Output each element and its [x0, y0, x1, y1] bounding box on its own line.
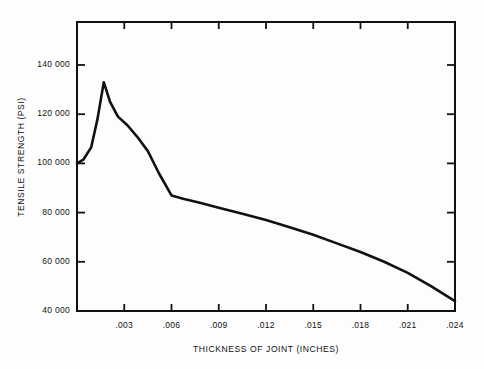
- x-axis-tick-label: .009: [199, 320, 239, 330]
- x-axis-title: THICKNESS OF JOINT (INCHES): [77, 344, 455, 354]
- x-axis-tick-label: .024: [435, 320, 475, 330]
- x-axis-tick-label: .015: [293, 320, 333, 330]
- x-axis-tick-label: .003: [104, 320, 144, 330]
- x-axis-tick-label: .006: [152, 320, 192, 330]
- x-axis-tick-label: .021: [388, 320, 428, 330]
- x-axis-tick-label: .012: [246, 320, 286, 330]
- y-axis-tick-label: 140 000: [14, 59, 70, 69]
- y-axis-tick-label: 40 000: [14, 305, 70, 315]
- y-axis-tick-label: 60 000: [14, 256, 70, 266]
- chart-plot-area: [0, 0, 484, 369]
- chart-figure: 40 00060 00080 000100 000120 000140 000 …: [0, 0, 484, 369]
- data-series-line: [77, 82, 455, 301]
- y-axis-title: TENSILE STRENGTH (PSI): [16, 82, 26, 232]
- x-axis-tick-label: .018: [341, 320, 381, 330]
